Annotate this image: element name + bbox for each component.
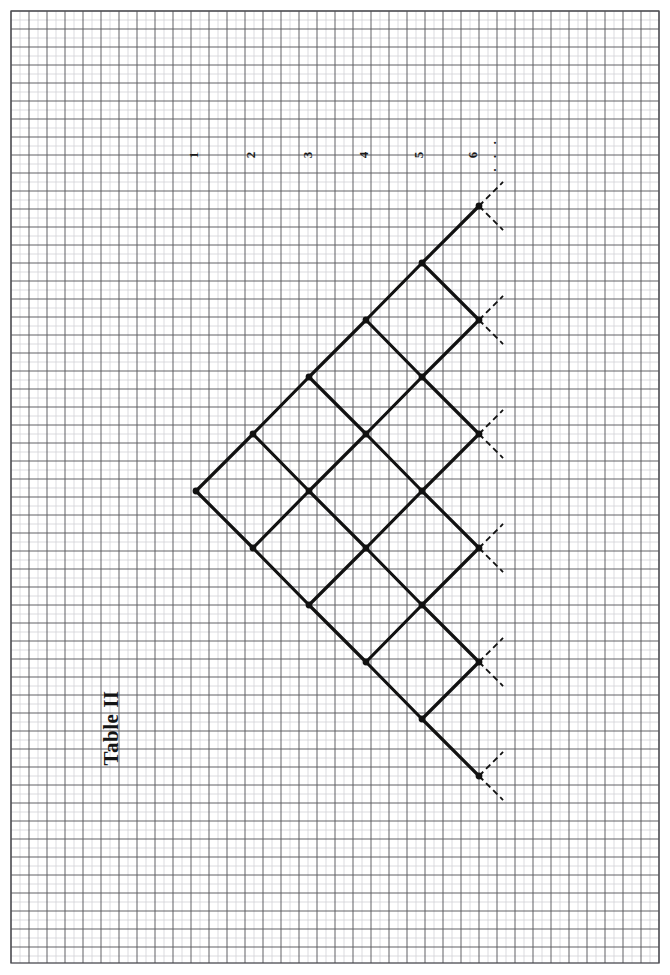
- figure-page: Table II 123456· · ·: [0, 0, 670, 975]
- column-label-3: 3: [301, 145, 317, 165]
- lattice-dashed-continuations: [479, 182, 503, 800]
- column-label-1: 1: [187, 145, 203, 165]
- lattice-figure: [0, 0, 670, 975]
- grid-major-lines: [11, 11, 659, 963]
- column-label-ellipsis: · · ·: [488, 135, 506, 175]
- lattice-edges: [196, 206, 479, 776]
- column-label-5: 5: [412, 145, 428, 165]
- figure-title: Table II: [101, 678, 125, 778]
- column-label-2: 2: [244, 145, 260, 165]
- column-label-4: 4: [357, 145, 373, 165]
- column-label-6: 6: [466, 145, 482, 165]
